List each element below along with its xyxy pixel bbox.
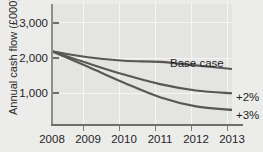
series-label-plus-3pct: +3% [236,109,259,121]
y-axis-tick-label: 2,000 [0,52,48,64]
y-axis-tick [53,57,59,59]
y-axis-tick [53,92,59,94]
x-axis-tick [83,126,84,131]
x-axis-tick-label: 2009 [68,133,108,145]
x-axis-tick-label: 2008 [32,133,72,145]
cash-flow-line-chart: Annual cash flow (£000) 3,000 2,000 1,00… [0,0,263,152]
y-axis-tick [53,22,59,24]
x-axis-tick [119,126,120,131]
x-axis-tick [191,126,192,131]
y-axis-tick-label: 1,000 [0,87,48,99]
x-axis-tick [227,126,228,131]
x-axis-tick-label: 2012 [176,133,216,145]
x-axis-line [51,124,243,126]
series-label-base-case: Base case [170,57,224,69]
x-axis-tick-label: 2011 [140,133,180,145]
x-axis-tick-label: 2010 [104,133,144,145]
series-label-plus-2pct: +2% [236,91,259,103]
x-axis-tick [155,126,156,131]
x-axis-tick-label: 2013 [212,133,252,145]
y-axis-tick-label: 3,000 [0,17,48,29]
